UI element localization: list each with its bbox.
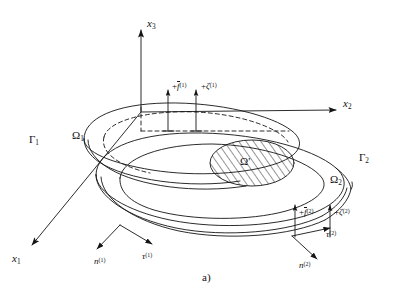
axis-label-x1: x1 [12,253,21,266]
domain-label-omega2: Ω2 [330,174,342,187]
load-label-zeta1-sup: (1) [210,82,217,88]
domain-label-omega1-sub: 1 [80,135,84,143]
vector-label-n2: n(2) [299,261,310,270]
vector-label-tau2: τ(2) [326,230,336,239]
boundary-label-gamma2-sub: 2 [365,157,369,165]
boundary-label-gamma1-sub: 1 [35,139,39,147]
domain-label-omega1: Ω1 [72,130,84,143]
load-label-zeta2-sup: (2) [343,208,350,214]
leader-tau1 [120,225,152,244]
vector-label-tau1: τ(1) [142,252,152,261]
vector-label-tau1-sup: (1) [145,252,152,258]
omega-prime-region [210,140,294,186]
axis-label-x2: x2 [343,98,352,111]
axis-label-x2-sub: 2 [348,103,352,111]
load-arrow-f1 [163,90,174,131]
vector-label-n1: n(1) [94,257,105,266]
load-arrow-zeta1 [191,90,202,131]
leader-n1 [97,225,120,249]
axis-label-x3-sub: 3 [152,23,156,31]
lower-plate-bottom-edge [96,175,351,236]
leader-n2 [292,236,317,259]
vector-label-n2-sup: (2) [304,261,311,267]
axis-label-x3: x3 [147,18,156,31]
load-label-zeta1: +ζ(1) [201,82,217,91]
axis-label-x1-sub: 1 [17,258,21,266]
load-label-zeta2: +ζ(2) [334,208,350,217]
vector-label-n1-sup: (1) [99,257,106,263]
vector-label-tau2-sup: (2) [329,230,336,236]
load-label-f2-sup: (2) [307,208,314,214]
domain-label-omega2-sub: 2 [338,179,342,187]
load-label-f2: +f(2) [299,208,314,217]
boundary-label-gamma1: Γ1 [29,134,39,147]
axis-x1-line [32,112,141,245]
domain-label-omega-prime-text: Ω' [240,155,250,167]
diagram-canvas [0,0,395,297]
domain-label-omega-prime: Ω' [240,156,250,167]
load-label-f1: +f(1) [172,82,187,91]
figure-diagram: x3 x2 x1 Γ1 Γ2 Ω1 Ω2 Ω' +f(1) +ζ(1) +f(2… [0,0,395,297]
figure-caption: a) [202,272,211,283]
boundary-label-gamma2: Γ2 [359,152,369,165]
load-label-f1-sup: (1) [180,82,187,88]
